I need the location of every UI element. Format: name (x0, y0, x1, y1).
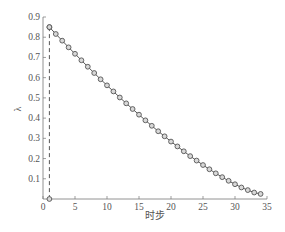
x-tick-label: 15 (134, 202, 144, 212)
data-point-marker (220, 175, 225, 180)
y-tick-label: 0.2 (28, 154, 40, 164)
y-tick-label: 0.9 (28, 12, 40, 22)
data-point-marker (66, 45, 71, 50)
data-point-marker (169, 139, 174, 144)
data-point-marker (213, 171, 218, 176)
data-point-marker (60, 38, 65, 43)
data-point-marker (79, 58, 84, 63)
data-point-marker (130, 107, 135, 112)
data-point-marker (252, 190, 257, 195)
data-point-marker (53, 32, 58, 37)
data-point-marker (194, 158, 199, 163)
data-point-marker (162, 134, 167, 139)
x-tick-label: 10 (102, 202, 112, 212)
x-tick-label: 0 (41, 202, 46, 212)
data-point-marker (143, 118, 148, 123)
data-point-marker (85, 64, 90, 69)
y-tick-label: 0.5 (28, 93, 40, 103)
data-point-marker (201, 163, 206, 168)
x-tick-label: 35 (262, 202, 272, 212)
data-point-marker (226, 178, 231, 183)
lambda-chart: 051015202530350.10.20.30.40.50.60.70.80.… (0, 0, 285, 232)
data-point-marker (98, 77, 103, 82)
data-point-marker (73, 51, 78, 56)
data-point-marker (188, 154, 193, 159)
x-tick-label: 25 (198, 202, 208, 212)
data-point-marker (245, 188, 250, 193)
data-point-marker (111, 89, 116, 94)
data-point-marker (47, 25, 52, 30)
y-axis-label: λ (12, 106, 23, 111)
data-point-marker (92, 71, 97, 76)
lambda-line (49, 27, 260, 194)
x-tick-label: 30 (230, 202, 240, 212)
data-point-marker (233, 182, 238, 187)
y-tick-label: 0.8 (28, 32, 40, 42)
data-point-marker (156, 129, 161, 134)
y-tick-label: 0.1 (28, 174, 40, 184)
x-tick-label: 5 (73, 202, 78, 212)
data-point-marker (105, 83, 110, 88)
y-tick-label: 0.6 (28, 73, 40, 83)
x-axis-label: 时步 (145, 210, 165, 221)
data-point-marker (124, 101, 129, 106)
y-tick-label: 0.7 (28, 52, 40, 62)
data-point-marker (239, 185, 244, 190)
data-point-marker (137, 112, 142, 117)
x-tick-label: 20 (166, 202, 176, 212)
y-tick-label: 0.4 (28, 113, 40, 123)
data-point-marker (149, 123, 154, 128)
data-point-marker (258, 192, 263, 197)
data-point-marker (47, 197, 52, 202)
data-point-marker (207, 167, 212, 172)
data-point-marker (175, 144, 180, 149)
plot-area (47, 25, 263, 202)
y-tick-label: 0.3 (28, 133, 40, 143)
data-point-marker (117, 95, 122, 100)
data-point-marker (181, 149, 186, 154)
